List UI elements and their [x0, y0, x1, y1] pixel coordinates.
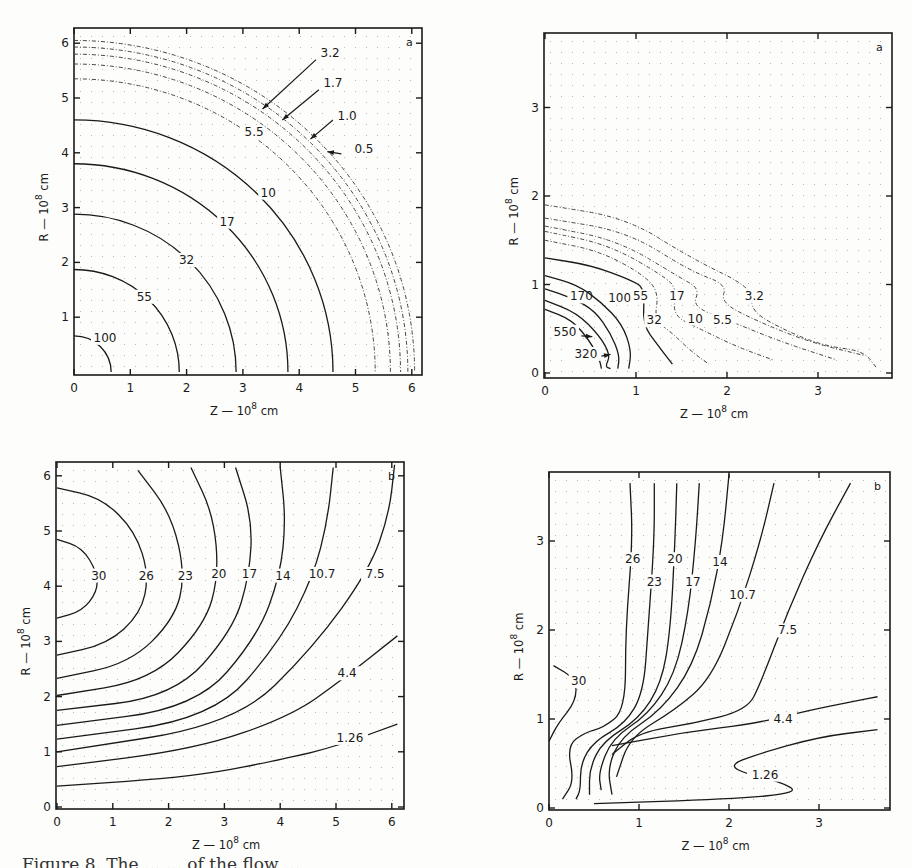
y-axis-label: R — 108 cm: [34, 173, 51, 241]
x-tick-label: 3: [815, 816, 823, 830]
contour-label: 1.7: [323, 76, 342, 90]
contour-label: 32: [647, 313, 662, 327]
contour-label: 23: [647, 575, 662, 589]
x-tick-label: 5: [352, 381, 360, 395]
y-tick-label: 2: [536, 623, 544, 637]
x-tick-label: 0: [541, 384, 549, 398]
x-tick-label: 1: [632, 384, 640, 398]
panel-top-left: 0123456123456Z — 108 cmR — 108 cma100553…: [34, 28, 422, 418]
contour-label: 1.26: [337, 731, 364, 745]
y-tick-label: 6: [43, 469, 51, 483]
y-tick-label: 4: [61, 146, 69, 160]
y-axis-label: R — 108 cm: [16, 607, 33, 675]
x-tick-label: 1: [635, 816, 643, 830]
contour-label: 26: [625, 552, 640, 566]
contour-label: 14: [712, 555, 727, 569]
panel-top-right: 01230123Z — 108 cmR — 108 cma55032017010…: [504, 33, 892, 421]
x-tick-label: 0: [545, 816, 553, 830]
y-tick-label: 3: [536, 534, 544, 548]
contour-label: 170: [570, 289, 593, 303]
contour-line-7.5: [57, 465, 395, 752]
contour-label: 20: [667, 552, 682, 566]
contour-line-7.5: [612, 483, 851, 754]
y-tick-label: 1: [61, 310, 69, 324]
y-tick-label: 1: [43, 745, 51, 759]
y-tick-label: 2: [531, 189, 539, 203]
y-axis-label: R — 108 cm: [509, 613, 526, 681]
contour-line-10.7: [57, 468, 333, 740]
contour-line-1.0: [74, 47, 408, 372]
x-tick-label: 2: [723, 384, 731, 398]
x-tick-label: 2: [183, 381, 191, 395]
y-tick-label: 0: [531, 366, 539, 380]
x-tick-label: 2: [725, 816, 733, 830]
contour-label: 26: [139, 569, 154, 583]
x-axis-label: Z — 108 cm: [210, 401, 278, 418]
y-tick-label: 0: [536, 801, 544, 815]
y-tick-label: 0: [43, 800, 51, 814]
contour-label: 550: [554, 325, 577, 339]
contour-line-0.5: [74, 40, 415, 372]
contour-label: 100: [608, 291, 631, 305]
x-tick-label: 5: [332, 815, 340, 829]
x-tick-label: 0: [53, 815, 61, 829]
contour-line-14: [57, 468, 284, 726]
figure-caption: Figure 8. The ... ... of the flow ...: [22, 853, 912, 868]
contour-label: 30: [571, 674, 586, 688]
contour-label: 32: [179, 253, 194, 267]
contour-line-1.7: [74, 54, 401, 372]
contour-label: 55: [633, 289, 648, 303]
panel-bottom-right: 01230123Z — 108 cmR — 108 cmb30262320171…: [509, 472, 890, 853]
contour-label: 7.5: [366, 567, 385, 581]
contour-label: 30: [91, 569, 106, 583]
contour-label: 1.26: [752, 768, 779, 782]
contour-label: 23: [178, 569, 193, 583]
y-tick-label: 6: [61, 36, 69, 50]
y-tick-label: 5: [61, 91, 69, 105]
y-tick-label: 1: [536, 712, 544, 726]
panel-letter: b: [874, 480, 881, 493]
y-tick-label: 2: [43, 690, 51, 704]
contour-label: 7.5: [778, 623, 797, 637]
contour-label: 3.2: [745, 289, 764, 303]
x-tick-label: 1: [126, 381, 134, 395]
x-axis-label: Z — 108 cm: [682, 836, 750, 853]
contour-line-20: [590, 483, 677, 795]
panel-bottom-left: 01234560123456Z — 108 cmR — 108 cmb30262…: [16, 462, 404, 852]
y-tick-label: 2: [61, 255, 69, 269]
contour-line-3.2: [545, 205, 877, 369]
x-tick-label: 3: [814, 384, 822, 398]
y-tick-label: 3: [43, 634, 51, 648]
contour-label: 4.4: [338, 666, 357, 680]
y-tick-label: 3: [531, 101, 539, 115]
contour-label: 0.5: [354, 142, 373, 156]
dot-grid: [62, 470, 393, 801]
contour-figure: 0123456123456Z — 108 cmR — 108 cma100553…: [0, 0, 912, 868]
contour-line-17: [600, 483, 700, 790]
contour-line-10.7: [617, 483, 775, 777]
contour-label: 20: [211, 567, 226, 581]
contour-label: 17: [242, 567, 257, 581]
panel-letter: a: [406, 36, 413, 49]
plot-frame: [549, 472, 890, 810]
dot-grid: [80, 36, 411, 367]
plot-frame: [74, 28, 422, 375]
x-tick-label: 2: [165, 815, 173, 829]
x-axis-label: Z — 108 cm: [192, 835, 260, 852]
contour-label: 320: [574, 347, 597, 361]
x-tick-label: 3: [239, 381, 247, 395]
contour-label: 17: [685, 575, 700, 589]
y-tick-label: 5: [43, 524, 51, 538]
contour-label: 14: [275, 569, 290, 583]
contour-line-23: [57, 470, 182, 678]
x-tick-label: 0: [70, 381, 78, 395]
contour-line-4.4: [612, 697, 878, 746]
contour-label: 55: [137, 290, 152, 304]
contour-label: 5.5: [713, 313, 732, 327]
contour-line-55: [74, 270, 179, 372]
contour-label: 100: [94, 331, 117, 345]
contour-label: 17: [669, 289, 684, 303]
y-tick-label: 4: [43, 579, 51, 593]
contour-label: 3.2: [321, 46, 340, 60]
x-tick-label: 6: [388, 815, 396, 829]
